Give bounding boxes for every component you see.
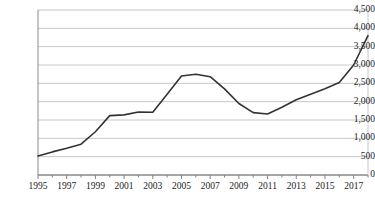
x-axis-tick-label: 2001 xyxy=(108,182,140,192)
y-axis-tick-label: 0 xyxy=(342,170,375,180)
y-axis-tick-label: 1,500 xyxy=(342,115,375,125)
x-axis-tick-label: 2005 xyxy=(165,182,197,192)
x-axis-tick-label: 2009 xyxy=(223,182,255,192)
x-axis-tick-label: 2011 xyxy=(252,182,284,192)
x-axis-tick-label: 2015 xyxy=(309,182,341,192)
y-axis-tick-label: 4,500 xyxy=(342,5,375,15)
x-axis-tick-label: 2013 xyxy=(280,182,312,192)
x-axis-tick-label: 2007 xyxy=(194,182,226,192)
x-axis-tick-label: 2003 xyxy=(137,182,169,192)
y-axis-tick-label: 500 xyxy=(342,152,375,162)
y-axis-tick-label: 3,500 xyxy=(342,42,375,52)
y-axis-tick-label: 4,000 xyxy=(342,23,375,33)
y-axis-tick-label: 3,000 xyxy=(342,60,375,70)
x-axis-tick-label: 2017 xyxy=(338,182,370,192)
line-chart: 05001,0001,5002,0002,5003,0003,5004,0004… xyxy=(0,0,375,200)
x-axis-tick-label: 1997 xyxy=(51,182,83,192)
y-axis-tick-label: 2,500 xyxy=(342,78,375,88)
plot-area xyxy=(0,0,375,200)
x-axis-tick-label: 1999 xyxy=(79,182,111,192)
y-axis-tick-label: 2,000 xyxy=(342,97,375,107)
x-axis-ticks xyxy=(38,175,368,179)
gridlines xyxy=(38,10,368,175)
x-axis-tick-label: 1995 xyxy=(22,182,54,192)
y-axis-tick-label: 1,000 xyxy=(342,133,375,143)
